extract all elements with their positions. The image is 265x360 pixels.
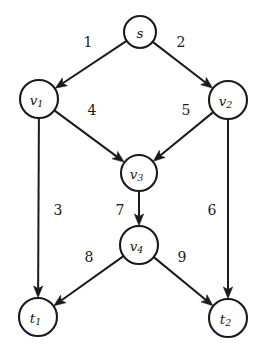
arrow-head-icon <box>55 78 67 88</box>
edge-label-v4-to-t2: 9 <box>178 249 187 265</box>
edge-label-v4-to-t1: 8 <box>85 249 94 265</box>
edge-v2-to-t2 <box>223 120 232 299</box>
node-s[interactable]: s <box>124 16 156 48</box>
node-v2[interactable]: v2 <box>209 81 247 119</box>
edge-label-s-to-v1: 1 <box>84 34 93 50</box>
edge-v1-to-v3 <box>55 111 124 162</box>
edge-v3-to-v4 <box>134 192 143 226</box>
flow-network-diagram: sv1v2v3v4t1t2 123456789 <box>0 0 265 360</box>
edge-shaft <box>63 41 127 83</box>
edge-label-v1-to-v3: 4 <box>88 102 97 118</box>
edge-v2-to-v3 <box>153 112 213 161</box>
edge-label-s-to-v2: 2 <box>177 34 186 50</box>
edge-shaft <box>38 119 39 289</box>
node-label-s: s <box>137 25 144 41</box>
flow-network-svg: sv1v2v3v4t1t2 123456789 <box>0 0 265 360</box>
node-v4[interactable]: v4 <box>120 226 158 264</box>
node-t1[interactable]: t1 <box>19 298 57 336</box>
node-v3[interactable]: v3 <box>121 155 157 191</box>
edge-label-v1-to-t1: 3 <box>54 202 63 218</box>
edge-label-v2-to-t2: 6 <box>208 202 217 218</box>
nodes-layer: sv1v2v3v4t1t2 <box>19 16 247 337</box>
edge-shaft <box>55 111 117 157</box>
edge-label-v3-to-v4: 7 <box>116 202 125 218</box>
arrow-head-icon <box>112 151 124 162</box>
node-t2[interactable]: t2 <box>209 299 247 337</box>
node-v1[interactable]: v1 <box>20 80 58 118</box>
edge-shaft <box>160 112 213 155</box>
edge-v1-to-t1 <box>34 119 43 298</box>
arrow-head-icon <box>54 295 66 305</box>
edge-label-v2-to-v3: 5 <box>182 102 191 118</box>
